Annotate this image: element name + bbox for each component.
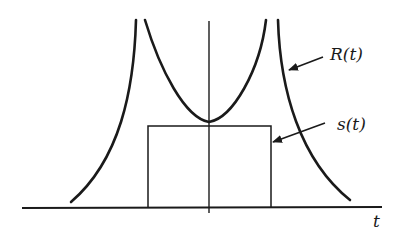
r-curve-center bbox=[145, 20, 266, 122]
t-axis bbox=[22, 207, 382, 208]
t-axis-label: t bbox=[373, 211, 380, 231]
plot-canvas: R(t) s(t) t bbox=[0, 0, 399, 235]
r-label: R(t) bbox=[329, 44, 363, 64]
r-label-arrow bbox=[289, 57, 323, 70]
s-label: s(t) bbox=[337, 114, 366, 134]
diagram: R(t) s(t) t bbox=[0, 0, 399, 235]
r-curve-left bbox=[71, 20, 136, 202]
